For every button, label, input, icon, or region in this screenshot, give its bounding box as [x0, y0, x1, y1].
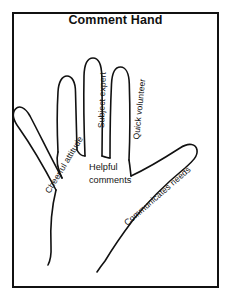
hand-diagram: Subject expert Quick volunteer Cheerful …: [0, 0, 207, 276]
finger-label-middle: Subject expert: [96, 72, 108, 129]
palm-label: Helpful comments: [89, 161, 131, 186]
comment-hand-poster: Comment Hand: [0, 0, 231, 300]
hand-outline-icon: [0, 0, 207, 276]
